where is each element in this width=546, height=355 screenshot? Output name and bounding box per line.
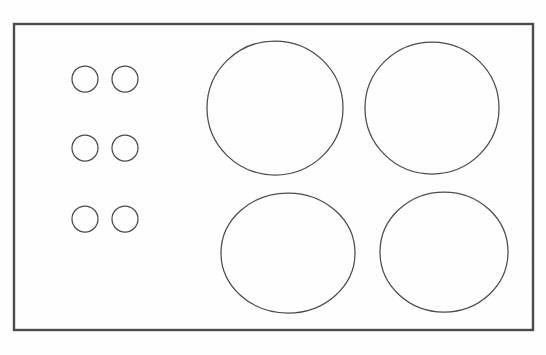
knob-row3-left[interactable] xyxy=(72,206,98,232)
knob-row1-right[interactable] xyxy=(112,66,138,92)
cooktop-diagram xyxy=(0,0,546,355)
burner-bottom-left[interactable] xyxy=(221,193,355,313)
knob-row2-right[interactable] xyxy=(112,135,138,161)
knob-row1-left[interactable] xyxy=(72,66,98,92)
knob-row3-right[interactable] xyxy=(112,206,138,232)
burner-bottom-right[interactable] xyxy=(380,192,508,312)
burner-top-right[interactable] xyxy=(365,42,499,174)
burner-top-left[interactable] xyxy=(207,41,343,175)
knob-row2-left[interactable] xyxy=(72,135,98,161)
diagram-canvas xyxy=(0,0,546,355)
